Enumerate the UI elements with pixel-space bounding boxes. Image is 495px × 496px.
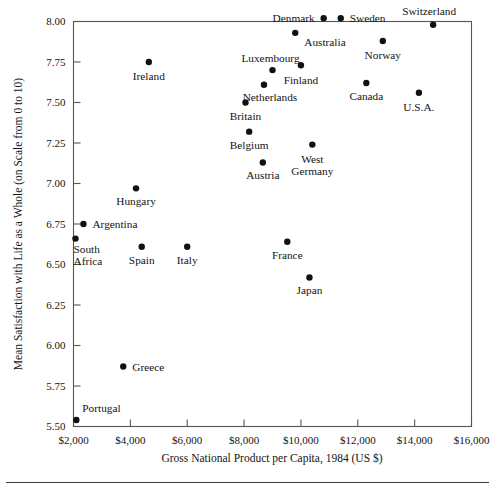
y-tick-label: 8.00 — [46, 15, 66, 27]
plot-canvas: 5.505.756.006.256.506.757.007.257.507.75… — [0, 0, 495, 496]
y-tick-label: 6.75 — [46, 218, 66, 230]
data-point-label: Italy — [177, 254, 198, 266]
data-label-group: PortugalSouthAfricaArgentinaGreeceHungar… — [73, 5, 456, 414]
x-tick-label: $14,000 — [397, 434, 433, 446]
data-point — [363, 80, 369, 86]
data-point-label: Greece — [132, 361, 164, 373]
data-point — [380, 38, 386, 44]
data-point — [260, 159, 266, 165]
data-point — [133, 185, 139, 191]
footer-divider — [6, 482, 489, 483]
x-tick-label: $4,000 — [115, 434, 146, 446]
data-point-label: U.S.A. — [403, 101, 434, 113]
data-point — [139, 243, 145, 249]
y-tick-label: 6.25 — [46, 299, 66, 311]
y-tick-label: 6.00 — [46, 339, 66, 351]
data-point-label: Sweden — [350, 12, 386, 24]
data-point — [80, 221, 86, 227]
data-point-label: France — [272, 249, 303, 261]
y-tick-label: 7.50 — [46, 96, 66, 108]
data-point — [146, 59, 152, 65]
y-tick-label: 5.75 — [46, 380, 66, 392]
data-point — [284, 239, 290, 245]
data-point-label: Spain — [129, 254, 155, 266]
scatter-plot-figure: 5.505.756.006.256.506.757.007.257.507.75… — [0, 0, 495, 496]
y-axis-ticks — [74, 22, 81, 427]
y-tick-label: 7.25 — [46, 137, 66, 149]
x-tick-label: $8,000 — [229, 434, 260, 446]
data-point — [430, 22, 436, 28]
data-point-label: Canada — [349, 90, 383, 102]
data-point — [292, 30, 298, 36]
data-point-label: Belgium — [230, 139, 269, 151]
data-point — [269, 67, 275, 73]
y-axis-tick-labels: 5.505.756.006.256.506.757.007.257.507.75… — [46, 15, 66, 432]
data-point — [184, 243, 190, 249]
x-axis-title: Gross National Product per Capita, 1984 … — [161, 452, 382, 465]
x-axis-tick-labels: $2,000$4,000$6,000$8,000$10,000$12,000$1… — [58, 434, 490, 446]
data-point-label: Britain — [230, 110, 262, 122]
data-point-label: Argentina — [92, 218, 137, 230]
data-point — [309, 141, 315, 147]
data-point — [246, 128, 252, 134]
data-point-label: Austria — [246, 169, 279, 181]
data-point-label: Ireland — [133, 70, 165, 82]
x-tick-label: $2,000 — [58, 434, 89, 446]
data-point — [261, 81, 267, 87]
data-point — [338, 15, 344, 21]
y-axis-title: Mean Satisfaction with Life as a Whole (… — [12, 78, 25, 370]
y-tick-label: 5.50 — [46, 420, 66, 432]
x-tick-label: $6,000 — [172, 434, 203, 446]
y-tick-label: 7.00 — [46, 177, 66, 189]
data-point-label: Denmark — [273, 12, 315, 24]
x-tick-label: $12,000 — [340, 434, 376, 446]
data-point — [320, 15, 326, 21]
y-tick-label: 7.75 — [46, 56, 66, 68]
y-tick-label: 6.50 — [46, 258, 66, 270]
data-point — [416, 90, 422, 96]
data-point — [72, 235, 78, 241]
x-axis-ticks — [74, 420, 472, 427]
data-point-label: Portugal — [82, 402, 120, 414]
data-point-label: Australia — [304, 36, 345, 48]
data-point-label: Luxembourg — [241, 52, 300, 64]
data-point-label: Hungary — [116, 195, 156, 207]
data-point — [73, 417, 79, 423]
data-point-label: Netherlands — [243, 91, 298, 103]
data-point-label: Norway — [365, 49, 402, 61]
data-point — [120, 363, 126, 369]
x-tick-label: $16,000 — [454, 434, 490, 446]
data-point-label: Switzerland — [402, 5, 456, 17]
x-tick-label: $10,000 — [283, 434, 319, 446]
data-point-label: SouthAfrica — [73, 243, 102, 268]
data-point-label: Finland — [284, 74, 319, 86]
data-point-label: WestGermany — [291, 153, 333, 178]
data-point-label: Japan — [297, 284, 323, 296]
data-point — [306, 274, 312, 280]
